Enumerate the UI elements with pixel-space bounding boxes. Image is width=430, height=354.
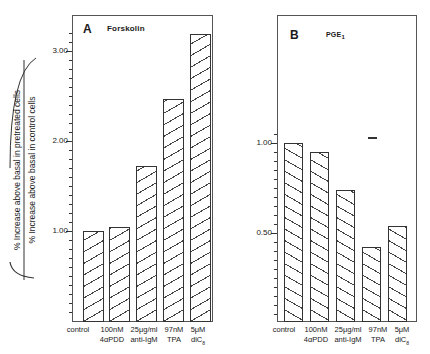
panel-b-ytick-05: 0.50 xyxy=(244,228,272,237)
bar-b-4 xyxy=(388,226,407,322)
panel-a-letter: A xyxy=(83,22,92,36)
bar-b-1 xyxy=(310,152,329,322)
minor-tick xyxy=(69,222,72,223)
minor-tick xyxy=(69,186,72,187)
minor-tick xyxy=(69,33,72,34)
ylabel-numerator: % Increase above basal in pretreated cel… xyxy=(11,60,25,280)
xlabel-b-tpa: 97nMTPA xyxy=(364,325,392,345)
panel-b-ytick-1: 1.00 xyxy=(244,138,272,147)
minor-tick xyxy=(69,150,72,151)
stray-dash-mark xyxy=(368,137,377,139)
xlabel-dic8: 5μMdiC8 xyxy=(185,325,211,348)
minor-tick xyxy=(274,134,277,135)
bar-a-0 xyxy=(83,231,104,322)
minor-tick xyxy=(274,224,277,225)
minor-tick xyxy=(69,312,72,313)
minor-tick xyxy=(69,249,72,250)
minor-tick xyxy=(274,278,277,279)
bar-a-3 xyxy=(163,99,184,322)
minor-tick xyxy=(69,87,72,88)
minor-tick xyxy=(274,296,277,297)
xlabel-b-4apdd: 100nM4αPDD xyxy=(301,325,331,345)
minor-tick xyxy=(69,258,72,259)
minor-tick xyxy=(274,287,277,288)
panel-a-ytick-1: 1.00 xyxy=(40,226,68,235)
xlabel-b-control: control xyxy=(268,325,300,335)
xlabel-b-dic8: 5μMdiC8 xyxy=(389,325,415,348)
bar-b-2 xyxy=(336,190,355,322)
minor-tick xyxy=(274,161,277,162)
minor-tick xyxy=(69,96,72,97)
minor-tick xyxy=(274,152,277,153)
minor-tick xyxy=(69,42,72,43)
panel-b-letter: B xyxy=(290,28,299,42)
bar-b-3 xyxy=(362,247,381,322)
bar-b-0 xyxy=(284,143,303,322)
minor-tick xyxy=(69,267,72,268)
minor-tick xyxy=(274,242,277,243)
panel-a-ytick-3: 3.00 xyxy=(40,46,68,55)
minor-tick xyxy=(69,294,72,295)
xlabel-4apdd: 100nM4αPDD xyxy=(97,325,127,345)
xlabel-anti-igm: 25μg/mlanti-IgM xyxy=(126,325,162,345)
bar-a-1 xyxy=(109,227,130,323)
minor-tick xyxy=(274,188,277,189)
minor-tick xyxy=(274,206,277,207)
bar-a-2 xyxy=(136,166,157,322)
y-axis-label: % Increase above basal in pretreated cel… xyxy=(4,60,44,280)
minor-tick xyxy=(274,179,277,180)
minor-tick xyxy=(69,159,72,160)
minor-tick xyxy=(274,314,277,315)
minor-tick xyxy=(69,285,72,286)
minor-tick xyxy=(69,177,72,178)
minor-tick xyxy=(274,197,277,198)
minor-tick xyxy=(69,78,72,79)
minor-tick xyxy=(69,168,72,169)
panel-a-title: Forskolin xyxy=(107,24,145,33)
minor-tick xyxy=(69,303,72,304)
minor-tick xyxy=(69,60,72,61)
minor-tick xyxy=(274,170,277,171)
panel-b-title: PGE1 xyxy=(326,31,345,40)
minor-tick xyxy=(274,260,277,261)
minor-tick xyxy=(69,114,72,115)
minor-tick xyxy=(69,105,72,106)
minor-tick xyxy=(69,240,72,241)
ylabel-denominator: % Increase above basal in control cells xyxy=(25,60,38,280)
minor-tick xyxy=(69,195,72,196)
minor-tick xyxy=(69,132,72,133)
xlabel-tpa: 97nMTPA xyxy=(160,325,188,345)
minor-tick xyxy=(274,251,277,252)
minor-tick xyxy=(69,276,72,277)
minor-tick xyxy=(69,204,72,205)
panel-a-ytick-2: 2.00 xyxy=(40,136,68,145)
minor-tick xyxy=(274,269,277,270)
xlabel-b-anti-igm: 25μg/mlanti-IgM xyxy=(330,325,366,345)
minor-tick xyxy=(69,123,72,124)
minor-tick xyxy=(69,213,72,214)
minor-tick xyxy=(274,215,277,216)
bar-a-4 xyxy=(190,34,211,322)
minor-tick xyxy=(274,305,277,306)
minor-tick xyxy=(69,69,72,70)
xlabel-control: control xyxy=(62,325,94,335)
